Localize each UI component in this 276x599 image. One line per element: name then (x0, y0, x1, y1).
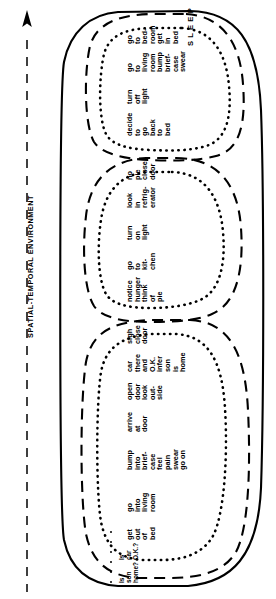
line: door (141, 412, 149, 432)
column-go-to-bedroom-get-in-bed: go to bed- room get in bed (126, 26, 179, 44)
line: pie (156, 277, 164, 302)
column-sigh-close-door: sigh close door (126, 325, 149, 344)
column-go-to-kitchen: go to kit- chen (126, 253, 156, 270)
column-decide-go-back-to-bed: decide to go back to bed (126, 113, 172, 136)
column-get-out-of-bed: get out of bed (126, 527, 156, 540)
line: O.K.? (133, 543, 140, 560)
line: bed (164, 113, 172, 136)
line: bed (149, 527, 157, 540)
diagram-canvas: SPATIAL-TEMPORAL ENVIRONMENT SLEEP get o… (0, 0, 276, 599)
line: swear (179, 51, 187, 72)
column-turn-off-light: turn off light (126, 88, 149, 104)
marker-label-is-car-ok: Is car O.K.? (119, 543, 139, 560)
line: light (141, 88, 149, 104)
line: go on (179, 449, 187, 470)
column-go-into-living-room: go into living room (126, 493, 156, 512)
line: bed (172, 26, 180, 44)
column-go-to-living-room: go to living room bump brief- case swear (126, 51, 187, 72)
line: door (141, 325, 149, 344)
column-look-in-refrigerator: look in refrig- erator (126, 187, 156, 208)
line: chen (149, 253, 157, 270)
marker-label-is-son-home: Is son home? (119, 562, 139, 583)
column-bump-into-briefcase: bump into brief- case feel pain swear go… (126, 449, 187, 470)
column-car-there-infer-son: car there and O.K. infer son is home (126, 352, 187, 372)
column-notice-hunger: notice hunger think of pie (126, 277, 164, 302)
sleep-label: SLEEP (186, 5, 195, 46)
line: erator (149, 187, 157, 208)
column-turn-on-light: turn on light (126, 224, 149, 240)
line: room (149, 493, 157, 512)
line: light (141, 224, 149, 240)
column-open-door-look-outside: open door look out- side (126, 382, 164, 400)
column-arrive-at-door: arrive at door (126, 412, 149, 432)
line: side (156, 382, 164, 400)
column-no-pie-close-door: no pie close door (126, 161, 156, 180)
line: home (179, 352, 187, 372)
line: door (149, 161, 157, 180)
line: home? (133, 562, 140, 583)
